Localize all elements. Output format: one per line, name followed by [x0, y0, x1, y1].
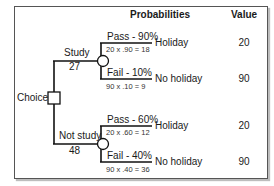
not-study-pass-outcome: Holiday — [155, 121, 188, 131]
not-study-fail-outcome: No holiday — [155, 157, 202, 167]
study-fail-probability: Fail - 10% — [107, 68, 152, 78]
not-study-fail-calculation: 90 x .40 = 36 — [106, 166, 150, 174]
study-pass-outcome: Holiday — [155, 38, 188, 48]
branch-study-expected-value: 27 — [69, 62, 80, 72]
branch-not-study-label: Not study — [59, 131, 101, 141]
study-pass-value: 20 — [232, 38, 256, 48]
decision-node-label: Choice — [17, 93, 48, 103]
not-study-pass-calculation: 20 x .60 = 12 — [106, 129, 150, 137]
study-pass-probability: Pass - 90% — [107, 32, 158, 42]
study-fail-calculation: 90 x .10 = 9 — [106, 83, 145, 91]
not-study-pass-probability: Pass - 60% — [107, 115, 158, 125]
chance-node-study-icon — [98, 56, 109, 67]
branch-study-label: Study — [64, 48, 90, 58]
branch-not-study-expected-value: 48 — [69, 146, 80, 156]
study-fail-outcome: No holiday — [155, 74, 202, 84]
not-study-fail-probability: Fail - 40% — [107, 151, 152, 161]
not-study-pass-value: 20 — [232, 121, 256, 131]
study-fail-value: 90 — [232, 74, 256, 84]
not-study-fail-value: 90 — [232, 157, 256, 167]
value-header: Value — [231, 10, 257, 20]
decision-node-icon — [48, 92, 60, 104]
study-pass-calculation: 20 x .90 = 18 — [106, 46, 150, 54]
probabilities-header: Probabilities — [130, 10, 190, 20]
